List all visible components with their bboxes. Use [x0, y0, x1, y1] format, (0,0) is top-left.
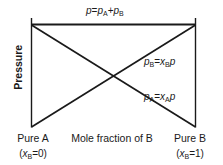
x-axis-right-endpoint-value: (xB=1) — [163, 149, 217, 159]
y-axis-label: Pressure — [13, 35, 24, 99]
raoults-law-figure: p=pA+pB pB=xBp pA=xAp Pressure Pure A (x… — [0, 0, 223, 165]
x-axis-left-endpoint-label: Pure A — [6, 133, 60, 144]
x-axis-label: Mole fraction of B — [57, 133, 167, 144]
partial-pressure-b-label: pB=xBp — [144, 57, 175, 67]
x-axis-left-endpoint-value: (xB=0) — [6, 149, 60, 159]
partial-pressure-a-label: pA=xAp — [144, 92, 175, 102]
x-axis-right-endpoint-label: Pure B — [163, 133, 217, 144]
total-pressure-label: p=pA+pB — [86, 6, 124, 16]
